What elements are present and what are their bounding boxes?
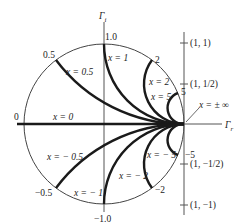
label-1.0: 1.0 (105, 32, 117, 42)
tick-label-1-neg-half: (1, −1/2) (190, 159, 223, 170)
label-x-5: x = 5 (150, 92, 171, 102)
tick-label-1-neg1: (1, −1) (190, 200, 216, 211)
smith-chart-svg: Γi Γr 1.0 −1.0 0 0.5 −0.5 2 −2 5 −5 x = … (0, 0, 244, 224)
label-x-neg-5: x = − 5 (146, 150, 176, 160)
label-x-0.5: x = 0.5 (65, 67, 94, 77)
gamma-i-label: Γi (98, 11, 106, 24)
smith-chart-diagram: Γi Γr 1.0 −1.0 0 0.5 −0.5 2 −2 5 −5 x = … (0, 0, 244, 224)
tick-label-1-half: (1, 1/2) (190, 79, 218, 90)
label-x-inf: x = ± ∞ (198, 100, 229, 110)
label-x-0: x = 0 (52, 112, 73, 122)
label-x-neg-1: x = − 1 (73, 188, 103, 198)
tick-label-1-1: (1, 1) (190, 38, 211, 49)
label-x-2: x = 2 (148, 77, 169, 87)
infinity-pointer-line (186, 108, 199, 122)
label-x-1: x = 1 (107, 53, 128, 63)
label-5: 5 (181, 87, 186, 97)
label-neg-1.0: −1.0 (94, 214, 111, 224)
label-x-neg-0.5: x = − 0.5 (46, 152, 83, 162)
label-neg-2: −2 (155, 185, 165, 195)
label-0: 0 (14, 112, 19, 122)
label-neg-0.5: −0.5 (35, 188, 52, 198)
label-0.5: 0.5 (43, 50, 55, 60)
label-x-neg-2: x = − 2 (118, 171, 148, 181)
label-2: 2 (155, 55, 160, 65)
gamma-r-label: Γr (224, 120, 233, 133)
